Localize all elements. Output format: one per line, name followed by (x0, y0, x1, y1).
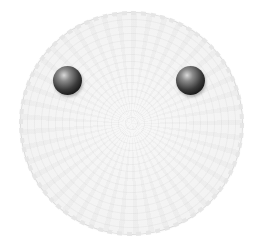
right-eye-bead (176, 66, 205, 95)
left-eye-bead (53, 66, 82, 95)
scalloped-edge (18, 10, 245, 237)
crochet-doily (21, 13, 242, 234)
doily-face-scene (0, 0, 260, 242)
